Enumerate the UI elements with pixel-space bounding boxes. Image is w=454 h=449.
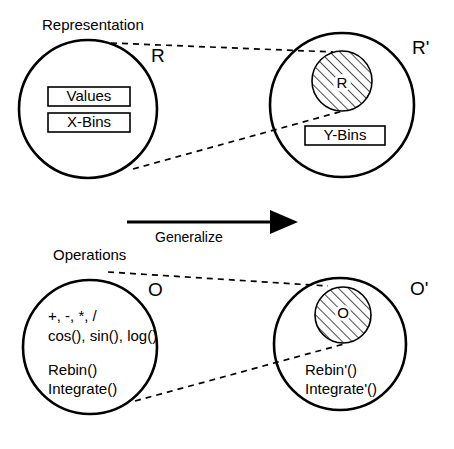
set-label-r-prime: R' (412, 37, 429, 58)
box-values[interactable]: Values (48, 87, 130, 106)
source-set-o[interactable]: O +, -, *, / cos(), sin(), log() Rebin()… (23, 279, 163, 414)
op-line-arithmetic: +, -, *, / (48, 307, 98, 324)
arrow-head (270, 210, 298, 234)
set-label-r: R (151, 45, 165, 66)
target-set-o-prime[interactable]: O' O Rebin'() Integrate'() (274, 278, 428, 410)
box-values-label: Values (67, 87, 112, 104)
op-line-rebin: Rebin() (48, 361, 97, 378)
group-title-representation: Representation (42, 16, 144, 33)
diagram-canvas: Representation R Values X-Bins R' (0, 0, 454, 449)
source-set-r[interactable]: R Values X-Bins (19, 40, 165, 178)
bottom-group: Operations O +, -, *, / cos(), sin(), lo… (23, 246, 428, 414)
box-y-bins[interactable]: Y-Bins (305, 126, 385, 145)
set-label-o-prime: O' (410, 278, 428, 299)
op-line-integrate: Integrate() (48, 380, 117, 397)
generalize-arrow: Generalize (127, 210, 298, 245)
box-y-bins-label: Y-Bins (324, 126, 367, 143)
group-title-operations: Operations (53, 246, 126, 263)
target-set-r-prime[interactable]: R' R Y-Bins (270, 33, 429, 177)
generalize-diagram: Representation R Values X-Bins R' (0, 0, 454, 449)
set-label-o: O (148, 279, 163, 300)
hatched-region-r: R (312, 51, 372, 111)
circle-r[interactable] (19, 40, 157, 178)
box-x-bins[interactable]: X-Bins (48, 113, 130, 132)
op-line-functions: cos(), sin(), log() (48, 327, 157, 344)
hatched-inner-label-o: O (337, 304, 349, 321)
top-group: Representation R Values X-Bins R' (19, 16, 429, 178)
op-prime-line-rebin: Rebin'() (305, 361, 357, 378)
mapping-line-bottom-upper (108, 272, 328, 286)
hatched-inner-label-r: R (337, 74, 348, 91)
box-x-bins-label: X-Bins (67, 113, 111, 130)
hatched-region-o: O (315, 287, 371, 343)
op-prime-line-integrate: Integrate'() (305, 380, 377, 397)
arrow-label: Generalize (155, 229, 223, 245)
